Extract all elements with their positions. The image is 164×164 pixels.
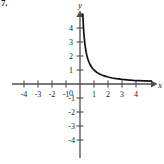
x-tick-label: 3 <box>120 90 124 99</box>
y-tick-label: -3 <box>68 122 75 131</box>
y-tick-label: 4 <box>69 24 73 33</box>
coordinate-plane-plot: -4 -3 -2 -1 1 2 3 4 1 2 3 4 -1 -2 -3 -4 … <box>0 0 164 164</box>
x-tick-label: -2 <box>49 90 56 99</box>
origin-label: 0 <box>69 89 73 98</box>
y-tick-label: -2 <box>68 108 75 117</box>
y-tick-label: 1 <box>69 66 73 75</box>
x-tick-label: -3 <box>35 90 42 99</box>
graph-figure: 7. -4 <box>0 0 164 164</box>
x-tick-label: 1 <box>92 90 96 99</box>
x-tick-label: -4 <box>21 90 28 99</box>
y-tick-label: 2 <box>69 52 73 61</box>
y-tick-label: -4 <box>68 136 75 145</box>
x-axis-label: x <box>157 80 162 90</box>
y-tick-label: 3 <box>69 38 73 47</box>
x-tick-label: 2 <box>106 90 110 99</box>
y-axis-label: y <box>77 0 82 10</box>
reciprocal-curve <box>83 14 152 81</box>
x-tick-label: 4 <box>134 90 138 99</box>
